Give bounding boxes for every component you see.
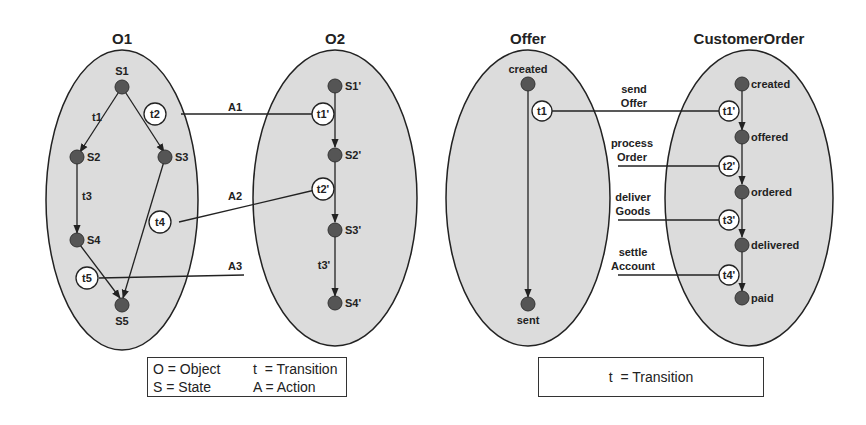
state-offer-created <box>521 77 535 91</box>
state-s2-prime <box>328 148 342 162</box>
state-co-created-label: created <box>751 78 790 90</box>
transition-offer-t1-label: t1 <box>537 105 547 117</box>
action-account-label: Account <box>611 260 655 272</box>
state-s3-prime-label: S3' <box>345 224 361 236</box>
state-s4-prime <box>328 296 342 310</box>
state-offer-sent-label: sent <box>517 314 540 326</box>
transition-t2-label: t2 <box>150 108 160 120</box>
legend-left: O = Object t = Transition S = State A = … <box>147 357 347 397</box>
legend-state: S = State <box>153 378 253 396</box>
action-offer-label: Offer <box>621 97 648 109</box>
state-co-delivered-label: delivered <box>751 239 799 251</box>
legend-right: t = Transition <box>538 357 764 397</box>
state-offer-sent <box>521 297 535 311</box>
state-s3-label: S3 <box>175 151 188 163</box>
action-a1-label: A1 <box>228 101 242 113</box>
transition-co-t2-label: t2' <box>723 160 736 172</box>
state-offer-created-label: created <box>508 63 547 75</box>
state-s2 <box>70 150 84 164</box>
state-s5 <box>115 298 129 312</box>
transition-co-t4-label: t4' <box>723 269 736 281</box>
state-s4-prime-label: S4' <box>345 297 361 309</box>
state-co-delivered <box>735 238 749 252</box>
action-settle-label: settle <box>619 246 648 258</box>
transition-t4-label: t4 <box>155 216 166 228</box>
object-o2-title: O2 <box>325 30 345 47</box>
state-co-ordered <box>735 185 749 199</box>
object-offer-title: Offer <box>510 30 546 47</box>
state-co-ordered-label: ordered <box>751 186 792 198</box>
state-co-created <box>735 77 749 91</box>
legend-object: O = Object <box>153 360 253 378</box>
transition-t5-label: t5 <box>82 272 92 284</box>
transition-t1-label: t1 <box>92 111 102 123</box>
state-s2-label: S2 <box>87 151 100 163</box>
state-s1-prime-label: S1' <box>345 80 361 92</box>
state-s5-label: S5 <box>115 315 128 327</box>
action-order-label: Order <box>617 151 648 163</box>
object-o1-title: O1 <box>112 30 132 47</box>
transition-t2-prime-label: t2' <box>317 183 330 195</box>
legend-transition: t = Transition <box>253 360 337 378</box>
transition-co-t1-label: t1' <box>723 105 736 117</box>
action-goods-label: Goods <box>616 205 651 217</box>
action-deliver-label: deliver <box>615 191 651 203</box>
legend-action: A = Action <box>253 378 316 396</box>
state-s1 <box>115 80 129 94</box>
transition-co-t3-label: t3' <box>723 214 736 226</box>
object-customerorder-title: CustomerOrder <box>694 30 805 47</box>
state-s2-prime-label: S2' <box>345 149 361 161</box>
action-process-label: process <box>611 137 653 149</box>
legend-transition-right: t = Transition <box>609 369 693 385</box>
state-s3 <box>158 150 172 164</box>
state-co-offered <box>735 130 749 144</box>
transition-t3-label: t3 <box>82 190 92 202</box>
state-s1-prime <box>328 79 342 93</box>
state-co-paid <box>735 291 749 305</box>
transition-t1-prime-label: t1' <box>317 108 330 120</box>
action-a3-label: A3 <box>228 260 242 272</box>
state-s3-prime <box>328 223 342 237</box>
state-s4 <box>70 233 84 247</box>
transition-t3-prime-label: t3' <box>318 259 331 271</box>
state-co-paid-label: paid <box>751 292 774 304</box>
action-send-label: send <box>621 83 647 95</box>
state-co-offered-label: offered <box>751 131 788 143</box>
object-customerorder-ellipse <box>665 50 833 346</box>
action-a2-label: A2 <box>228 190 242 202</box>
state-s4-label: S4 <box>87 234 101 246</box>
state-s1-label: S1 <box>115 65 128 77</box>
